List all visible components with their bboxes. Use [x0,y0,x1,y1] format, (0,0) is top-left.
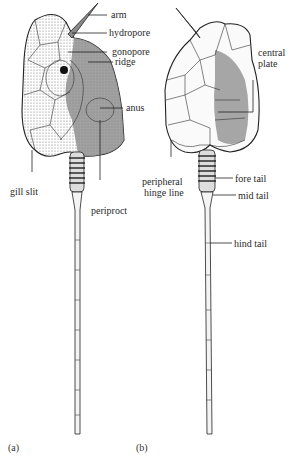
specimen-a [22,3,124,434]
label-gill-slit: gill slit [10,186,38,197]
label-periproct: periproct [91,205,127,216]
label-mid-tail: mid tail [238,190,269,201]
specimen-b [165,8,259,434]
panel-caption-b: (b) [136,442,148,453]
panel-caption-a: (a) [8,442,19,453]
label-hind-tail: hind tail [234,238,267,249]
hind-tail-a [72,192,82,434]
label-arm: arm [111,9,127,20]
fore-tail-a [69,152,85,192]
label-fore-tail: fore tail [235,173,266,184]
label-peripheral-hinge-line-1: peripheral [142,176,183,187]
label-ridge: ridge [115,56,136,67]
label-central-plate-line2: plate [258,58,277,69]
label-anus: anus [126,102,144,113]
figure-drawing [0,0,292,461]
label-central-plate-line1: central [258,47,285,58]
fore-tail-b [198,150,216,192]
label-peripheral-hinge-line-2: hinge line [144,187,184,198]
label-hydropore: hydropore [109,27,150,38]
hind-tail-b [201,192,213,434]
arm-b [176,8,200,38]
